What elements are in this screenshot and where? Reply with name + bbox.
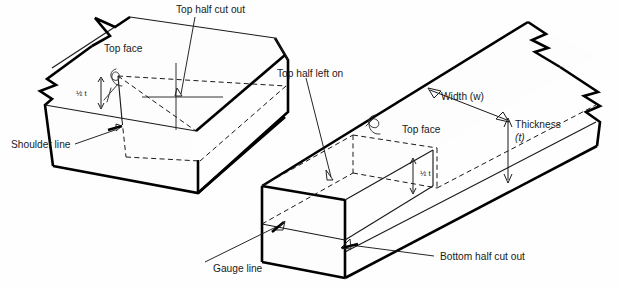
label-shoulder-line: Shoulder line (11, 139, 71, 150)
left-half-t-label: ½ t (76, 89, 87, 98)
right-board-thickness-dimension: Thickness (t) (504, 118, 561, 183)
label-top-half-cut-out: Top half cut out (176, 4, 245, 15)
label-bottom-half-cut-out: Bottom half cut out (440, 251, 525, 262)
right-half-t-label: ½ t (420, 169, 431, 178)
label-top-half-left-on: Top half left on (277, 68, 343, 79)
width-label: Width (w) (441, 91, 484, 102)
half-lap-joint-diagram: ½ t (0, 0, 618, 288)
label-top-face-right: Top face (402, 124, 441, 135)
label-top-face-left: Top face (104, 43, 143, 54)
thickness-symbol-label: (t) (515, 132, 525, 143)
diagram-canvas: ½ t (0, 0, 618, 288)
left-board: ½ t (40, 17, 288, 193)
thickness-label: Thickness (515, 119, 561, 130)
label-gauge-line: Gauge line (213, 263, 263, 274)
